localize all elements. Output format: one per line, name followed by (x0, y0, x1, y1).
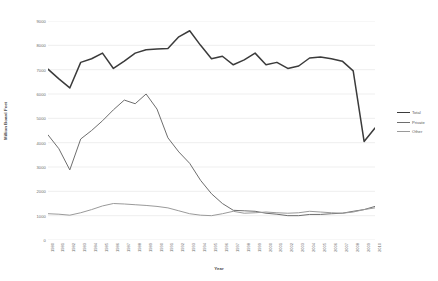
x-tick-label: 1987 (126, 243, 131, 252)
x-tick-label: 1995 (213, 243, 218, 252)
y-tick-label: 1000 (36, 213, 46, 218)
series-line-total (48, 31, 375, 142)
y-axis-title: Million Board Feet (3, 102, 8, 140)
x-tick-label: 1990 (159, 243, 164, 252)
x-tick-label: 1986 (115, 243, 120, 252)
x-tick-label: 1997 (235, 243, 240, 252)
x-tick-label: 2002 (289, 243, 294, 252)
x-tick-label: 1994 (202, 243, 207, 252)
x-tick-label: 1999 (257, 243, 262, 252)
x-tick-label: 2010 (377, 243, 382, 252)
x-tick-label: 1993 (191, 243, 196, 252)
x-tick-label: 2001 (278, 243, 283, 252)
x-tick-label: 1989 (148, 243, 153, 252)
x-tick-label: 1981 (60, 243, 65, 252)
x-tick-label: 2009 (366, 243, 371, 252)
chart-legend: TotalPrivateOther (397, 110, 425, 134)
y-tick-label: 8000 (36, 43, 46, 48)
x-tick-label: 2007 (344, 243, 349, 252)
y-tick-label: 2000 (36, 189, 46, 194)
x-tick-label: 2006 (333, 243, 338, 252)
x-tick-label: 1988 (137, 243, 142, 252)
legend-label: Other (412, 129, 422, 134)
y-tick-label: 0 (44, 238, 46, 243)
legend-swatch-icon (397, 131, 410, 132)
x-tick-label: 2004 (311, 243, 316, 252)
x-tick-label: 1991 (169, 243, 174, 252)
x-tick-label: 2008 (355, 243, 360, 252)
x-tick-label: 1982 (71, 243, 76, 252)
y-tick-label: 5000 (36, 116, 46, 121)
legend-item-other[interactable]: Other (397, 129, 425, 134)
legend-label: Total (412, 110, 421, 115)
y-tick-label: 3000 (36, 165, 46, 170)
x-tick-label: 1984 (93, 243, 98, 252)
x-tick-label: 1996 (224, 243, 229, 252)
x-tick-label: 2005 (322, 243, 327, 252)
x-axis-title: Year (0, 266, 438, 271)
legend-swatch-icon (397, 122, 410, 123)
legend-label: Private (412, 120, 425, 125)
series-line-private (48, 94, 375, 216)
x-tick-label: 1998 (246, 243, 251, 252)
legend-item-private[interactable]: Private (397, 120, 425, 125)
y-tick-label: 4000 (36, 140, 46, 145)
plot-area (48, 21, 375, 240)
line-chart: Million Board Feet 010002000300040005000… (0, 0, 438, 281)
y-tick-label: 6000 (36, 92, 46, 97)
x-tick-label: 1985 (104, 243, 109, 252)
x-tick-label: 2003 (300, 243, 305, 252)
legend-swatch-icon (397, 112, 410, 114)
x-tick-label: 1983 (82, 243, 87, 252)
series-lines (48, 21, 375, 240)
x-tick-label: 2000 (268, 243, 273, 252)
y-tick-label: 9000 (36, 19, 46, 24)
x-tick-label: 1980 (50, 243, 55, 252)
x-tick-label: 1992 (180, 243, 185, 252)
y-tick-label: 7000 (36, 67, 46, 72)
legend-item-total[interactable]: Total (397, 110, 425, 115)
